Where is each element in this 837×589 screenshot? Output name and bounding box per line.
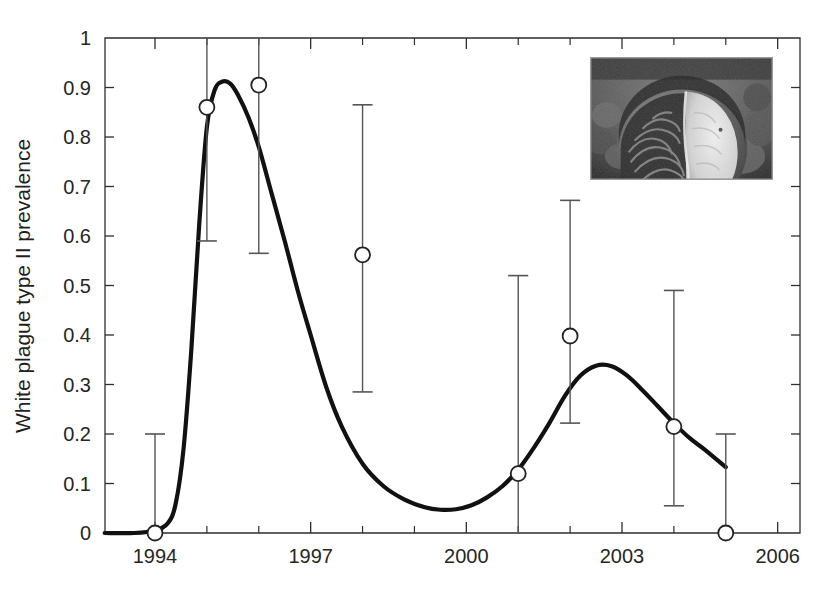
data-point-marker	[563, 328, 578, 343]
data-point-marker	[666, 419, 681, 434]
y-axis-tick-label: 1	[80, 27, 91, 49]
x-axis-tick-label: 1994	[133, 545, 178, 567]
coral-disease-photograph	[590, 57, 773, 180]
y-axis-tick-label: 0.3	[63, 374, 91, 396]
x-axis-tick-label: 1997	[288, 545, 333, 567]
coral-photo-graphic	[591, 58, 772, 179]
error-bar	[508, 276, 528, 533]
data-point-marker	[199, 100, 214, 115]
data-point-marker	[355, 247, 370, 262]
y-axis-title: White plague type II prevalence	[11, 139, 34, 433]
data-point-marker	[511, 466, 526, 481]
figure-panel: White plague type II prevalence 00.10.20…	[0, 0, 837, 589]
error-bar	[249, 38, 269, 253]
data-point-marker	[148, 526, 163, 541]
y-axis-tick-label: 0.6	[63, 225, 91, 247]
y-axis-tick-label: 0.5	[63, 275, 91, 297]
data-point-marker	[718, 526, 733, 541]
error-bar	[145, 434, 165, 533]
y-axis-tick-label: 0.4	[63, 324, 91, 346]
error-bar	[664, 290, 684, 505]
y-axis-tick-label: 0.2	[63, 423, 91, 445]
y-axis-tick-label: 0.9	[63, 77, 91, 99]
y-axis-tick-label: 0.7	[63, 176, 91, 198]
error-bar	[560, 200, 580, 423]
y-axis-tick-label: 0	[80, 522, 91, 544]
y-axis-tick-label: 0.1	[63, 473, 91, 495]
y-axis-tick-label: 0.8	[63, 126, 91, 148]
x-axis-tick-label: 2006	[755, 545, 800, 567]
error-bar	[716, 434, 736, 533]
x-axis-tick-label: 2000	[444, 545, 489, 567]
data-point-marker	[251, 78, 266, 93]
x-axis-tick-label: 2003	[600, 545, 645, 567]
